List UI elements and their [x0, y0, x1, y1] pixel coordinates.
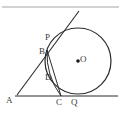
- point-label-D: D: [45, 73, 52, 82]
- point-label-P: P: [45, 33, 50, 42]
- point-label-C: C: [56, 98, 62, 107]
- point-label-A: A: [6, 96, 13, 105]
- point-label-B: B: [39, 47, 45, 56]
- geometry-figure: A B C D P Q O: [0, 0, 121, 113]
- point-label-O: O: [80, 55, 87, 64]
- point-label-Q: Q: [71, 98, 78, 107]
